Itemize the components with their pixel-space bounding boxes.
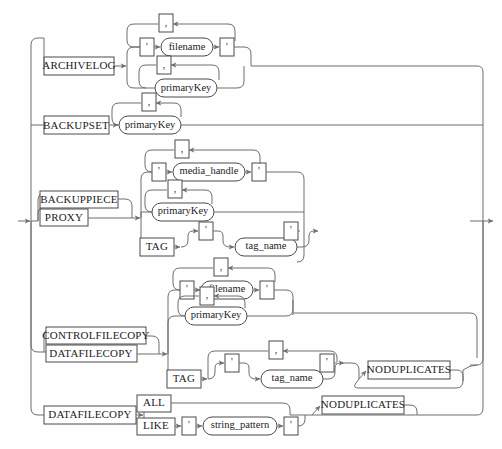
al-fork-down	[127, 66, 140, 88]
backupset-branch: BACKUPSET primaryKey ,	[43, 93, 470, 134]
datafilecopy-all-like-branch: DATAFILECOPY ALL LIKE ' string_pattern '…	[44, 395, 470, 435]
al-fork-up	[127, 47, 140, 66]
bs-loop-right	[163, 103, 181, 117]
df2-nodup-exit	[404, 405, 417, 415]
cf-loop1-right	[235, 268, 275, 282]
archivelog-label: ARCHIVELOG	[42, 59, 116, 71]
archivelog-comma-b: ,	[163, 59, 166, 70]
cf-comma3: ,	[275, 344, 278, 355]
bp-loop1-right	[196, 150, 260, 164]
cf-tagq-up	[208, 363, 224, 379]
df2-all-join	[283, 403, 290, 415]
cf-tag-name-label: tag_name	[272, 372, 313, 383]
rail-left-to-datafilecopy2	[31, 221, 44, 415]
cf-nodup-exit	[450, 370, 463, 381]
controlfilecopy-label: CONTROLFILECOPY	[42, 329, 150, 341]
bp-quote-open: '	[158, 165, 160, 176]
bp-comma2: ,	[174, 183, 177, 194]
cf-fork-row2	[168, 316, 180, 354]
df2-quote-close: '	[290, 419, 292, 430]
cf-row3-merge-right	[463, 365, 477, 381]
string-pattern-label: string_pattern	[211, 419, 270, 430]
bp-tagq2-up	[297, 231, 318, 247]
al-rowB-exit	[217, 72, 244, 88]
cf-primarykey-label: primaryKey	[191, 309, 242, 320]
cf-tagq-down	[239, 363, 260, 379]
controlfilecopy-datafilecopy-branch: CONTROLFILECOPY DATAFILECOPY ' filename …	[42, 258, 477, 388]
backuppiece-label: BACKUPPIECE	[40, 193, 117, 205]
bp-fork-row2	[141, 212, 152, 218]
cf-nodup-bypass	[355, 379, 463, 388]
bp-quote-close: '	[258, 165, 260, 176]
al-loopB-right	[178, 65, 219, 80]
bp-fork-row1	[141, 172, 152, 218]
cf-merge-right-curve	[470, 313, 477, 358]
datafilecopy-label: DATAFILECOPY	[49, 347, 132, 359]
al-rowA-exit	[234, 47, 251, 60]
al-loopB-left	[139, 65, 156, 88]
bp-row1-exit	[266, 172, 304, 213]
bp-comma1: ,	[181, 143, 184, 154]
bp-tagq-down	[213, 231, 234, 247]
cf-row1-exit	[274, 290, 293, 315]
cf-tag-quote-open: '	[231, 356, 233, 367]
df2-like-join	[298, 415, 305, 426]
bp-tag-label: TAG	[146, 240, 168, 252]
cf-comma1: ,	[220, 261, 223, 272]
proxy-label: PROXY	[45, 211, 83, 223]
all-label: ALL	[143, 396, 165, 408]
noduplicates-label-2: NODUPLICATES	[321, 398, 405, 410]
archivelog-comma-a: ,	[165, 17, 168, 28]
cf-tag-quote-close: '	[326, 356, 328, 367]
cf-to-noduplicates	[344, 363, 359, 379]
bp-primarykey-label: primaryKey	[158, 205, 209, 216]
archivelog-primarykey-label: primaryKey	[161, 82, 212, 93]
backuppiece-proxy-branch: BACKUPPIECE PROXY ' media_handle ' , pri…	[38, 140, 318, 262]
cf-nodup-arrow	[359, 371, 366, 379]
bp-media-handle-label: media_handle	[180, 165, 239, 176]
cf-comma2: ,	[206, 289, 209, 300]
archivelog-quote-open: '	[146, 41, 148, 52]
bp-loop2-right	[189, 190, 212, 204]
df2-quote-open: '	[188, 419, 190, 430]
railroad-diagram-canvas: ' filename ' , primaryKey , BACKUPSET	[0, 0, 502, 449]
cf-quote-close: '	[266, 283, 268, 294]
bp-tag-quote-open: '	[205, 224, 207, 235]
backupset-label: BACKUPSET	[43, 119, 109, 131]
bp-tagq-up	[181, 231, 198, 247]
al-merge-right	[251, 60, 470, 66]
bp-join-a	[118, 199, 132, 218]
bp-tag-name-label: tag_name	[246, 240, 287, 251]
backupset-primarykey-label: primaryKey	[125, 119, 176, 130]
datafilecopy2-label: DATAFILECOPY	[48, 408, 131, 420]
like-label: LIKE	[143, 419, 169, 431]
archivelog-branch: ' filename ' , primaryKey ,	[44, 14, 470, 97]
rail-right-from-archivelog	[470, 66, 483, 221]
railroad-diagram-svg: ' filename ' , primaryKey , BACKUPSET	[0, 0, 502, 449]
df2-nodup-arrow	[312, 406, 320, 415]
noduplicates-label-1: NODUPLICATES	[367, 363, 451, 375]
archivelog-quote-close: '	[226, 41, 228, 52]
cf-row2-exit	[247, 300, 293, 316]
backupset-comma: ,	[148, 96, 151, 107]
cf-tag-label: TAG	[173, 372, 195, 384]
archivelog-filename-label: filename	[169, 41, 206, 52]
bp-tag-quote-close: '	[290, 224, 292, 235]
cf-quote-open: '	[186, 283, 188, 294]
